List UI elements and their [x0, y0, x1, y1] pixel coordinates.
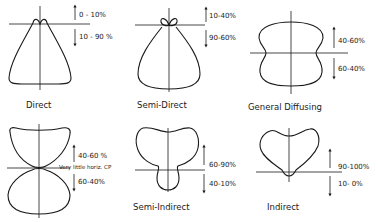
upward-percent: 90-100% — [338, 163, 370, 171]
downward-percent: 40-10% — [209, 180, 236, 188]
panel-label: Indirect — [267, 202, 300, 212]
downward-percent: 10- 0% — [338, 180, 363, 188]
downward-percent: 10 - 90 % — [79, 33, 113, 41]
panel-direct-indirect: 40-60 % Very little horiz. CP 60-40% — [7, 124, 112, 218]
downward-percent: 60-40% — [338, 65, 365, 73]
upward-percent: 60-90% — [209, 161, 236, 169]
horizontal-cp-note: Very little horiz. CP — [59, 164, 112, 171]
panel-general-diffusing: 40-60% 60-40% General Diffusing — [248, 11, 365, 112]
panel-semi-direct: 10-40% 90-60% Semi-Direct — [135, 8, 236, 110]
downward-percent: 60-40% — [78, 178, 105, 186]
downward-percent: 90-60% — [209, 34, 236, 42]
candlepower-curve-upper — [10, 128, 70, 168]
panel-label: General Diffusing — [248, 102, 322, 112]
panel-label: Direct — [26, 100, 52, 110]
panel-label: Semi-Indirect — [133, 202, 190, 212]
candlepower-curve-semi-indirect — [136, 128, 198, 190]
panel-direct: 0 - 10% 10 - 90 % Direct — [9, 6, 113, 110]
candlepower-curve-indirect — [260, 129, 319, 176]
upward-percent: 10-40% — [209, 12, 236, 20]
panel-indirect: 90-100% 10- 0% Indirect — [256, 128, 370, 212]
upward-percent: 40-60% — [338, 37, 365, 45]
panel-label: Semi-Direct — [137, 100, 187, 110]
distribution-diagram: 0 - 10% 10 - 90 % Direct 10-40% 90-60% S… — [0, 0, 378, 222]
upward-percent: 40-60 % — [78, 152, 108, 160]
panel-semi-indirect: 60-90% 40-10% Semi-Indirect — [133, 128, 236, 212]
upward-percent: 0 - 10% — [79, 11, 106, 19]
